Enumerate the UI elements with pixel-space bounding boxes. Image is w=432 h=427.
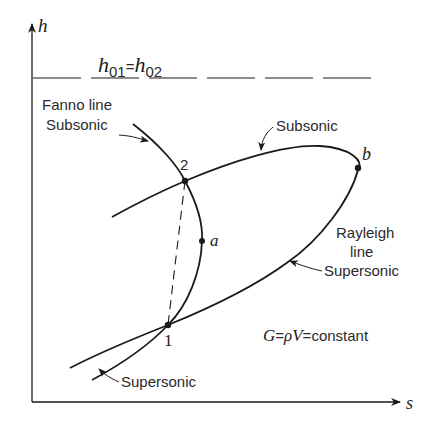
rayleigh-supersonic-arrow (290, 261, 322, 271)
fanno-supersonic-label: Supersonic (121, 373, 197, 390)
fanno-rayleigh-diagram: h s h01=h02 2 1 a b Fanno line Subsonic … (0, 0, 432, 427)
axes: h s (32, 15, 413, 413)
point-1-label: 1 (164, 331, 173, 350)
state-points: 2 1 a b (164, 144, 371, 350)
point-2-marker (182, 178, 188, 184)
x-axis-label: s (406, 393, 413, 413)
stagnation-label: h01=h02 (98, 52, 162, 80)
point-b-marker (355, 165, 361, 171)
point-b-label: b (362, 144, 371, 164)
rayleigh-labels: Subsonic Rayleigh line Supersonic (261, 117, 400, 279)
rayleigh-title-line1: Rayleigh (336, 224, 394, 241)
fanno-title: Fanno line (42, 96, 112, 113)
rayleigh-supersonic-label: Supersonic (324, 262, 400, 279)
rayleigh-subsonic-label: Subsonic (276, 117, 338, 134)
point-2-label: 2 (180, 156, 188, 173)
normal-shock-connector (168, 181, 185, 325)
point-a-label: a (210, 231, 219, 250)
y-axis-label: h (38, 15, 48, 36)
rayleigh-title-line2: line (350, 243, 373, 260)
stagnation-enthalpy-line: h01=h02 (33, 52, 380, 80)
rayleigh-subsonic-arrow (261, 127, 273, 150)
point-1-marker (165, 322, 171, 328)
fanno-subsonic-arrow (119, 135, 148, 141)
fanno-subsonic-label: Subsonic (46, 116, 108, 133)
point-a-marker (199, 238, 205, 244)
mass-flux-equation: G=ρV=constant (263, 326, 369, 345)
